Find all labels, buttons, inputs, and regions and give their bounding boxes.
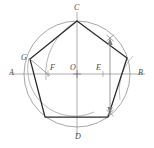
point-label-d: D (75, 133, 81, 141)
point-label-b: B (138, 69, 143, 77)
point-label-e: E (96, 64, 101, 72)
point-label-o: O (70, 64, 76, 72)
pentagon-construction-figure (0, 0, 154, 148)
point-label-g: G (21, 54, 27, 62)
arrow-head-up-icon (107, 38, 112, 45)
inscribed-pentagon (30, 21, 127, 117)
point-label-c: C (74, 4, 79, 12)
point-label-f: F (50, 64, 55, 72)
point-label-a: A (9, 69, 14, 77)
